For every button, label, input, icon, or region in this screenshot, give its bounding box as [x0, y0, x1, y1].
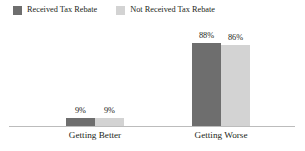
bar-wrap-better-not-received: 9% [95, 20, 124, 126]
bar-worse-received [192, 43, 221, 126]
legend-swatch-icon-received [13, 6, 22, 15]
bar-value-better-not-received: 9% [104, 106, 115, 116]
bar-better-received [66, 118, 95, 126]
bar-value-worse-not-received: 86% [228, 33, 243, 43]
category-label-getting-better: Getting Better [25, 130, 165, 141]
bar-wrap-worse-received: 88% [192, 20, 221, 126]
bar-wrap-worse-not-received: 86% [221, 20, 250, 126]
legend-label-not-received: Not Received Tax Rebate [130, 5, 215, 15]
bar-wrap-better-received: 9% [66, 20, 95, 126]
x-axis-baseline [9, 126, 295, 127]
bar-chart: Received Tax Rebate Not Received Tax Reb… [0, 0, 305, 151]
legend-swatch-icon-not-received [116, 6, 125, 15]
legend-item-not-received-tax-rebate: Not Received Tax Rebate [116, 5, 215, 15]
bar-value-worse-received: 88% [199, 31, 214, 41]
legend-item-received-tax-rebate: Received Tax Rebate [13, 5, 97, 15]
legend-label-received: Received Tax Rebate [27, 5, 97, 15]
bar-better-not-received [95, 118, 124, 126]
bar-group-getting-worse: 88% 86% [192, 20, 250, 126]
category-label-getting-worse: Getting Worse [151, 130, 291, 141]
plot-area: 9% 9% 88% 86% [0, 20, 305, 127]
bar-worse-not-received [221, 45, 250, 126]
chart-legend: Received Tax Rebate Not Received Tax Reb… [0, 0, 305, 20]
bar-group-getting-better: 9% 9% [66, 20, 124, 126]
bar-value-better-received: 9% [75, 106, 86, 116]
